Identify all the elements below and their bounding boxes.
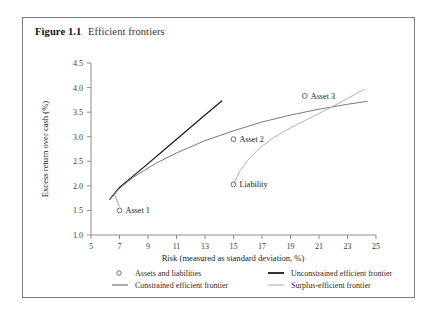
y-axis-title: Excess return over cash (%) [40, 101, 50, 198]
y-tick-label: 4.5 [73, 59, 83, 68]
series-constrained-efficient-frontier [110, 101, 368, 199]
open-circle-icon [117, 271, 121, 275]
x-tick-label: 11 [173, 242, 181, 251]
x-axis-ticks: 5791113151719212325 [89, 235, 380, 251]
x-tick-label: 23 [344, 242, 352, 251]
scatter-point-label: Liability [240, 180, 269, 189]
y-tick-label: 1.0 [73, 231, 83, 240]
scatter-marker [231, 137, 236, 142]
scatter-marker [117, 208, 122, 213]
scatter-point-label: Asset 1 [126, 206, 150, 215]
y-axis-ticks: 1.01.52.02.53.03.54.04.5 [73, 59, 91, 240]
x-tick-label: 13 [201, 242, 209, 251]
y-tick-label: 4.0 [73, 84, 83, 93]
x-tick-label: 21 [315, 242, 323, 251]
x-tick-label: 17 [258, 242, 266, 251]
x-axis-title: Risk (measured as standard deviation, %) [162, 253, 305, 263]
efficient-frontiers-chart: 1.01.52.02.53.03.54.04.5 579111315171921… [23, 18, 416, 299]
x-tick-label: 19 [287, 242, 295, 251]
y-tick-label: 2.0 [73, 182, 83, 191]
chart-plot-area: 1.01.52.02.53.03.54.04.5 579111315171921… [23, 18, 416, 299]
x-tick-label: 5 [89, 242, 93, 251]
y-tick-label: 2.5 [73, 157, 83, 166]
chart-annotations [114, 193, 120, 206]
scatter-point-label: Asset 2 [240, 135, 264, 144]
series-unconstrained-efficient-frontier [110, 101, 223, 200]
legend-item-label: Constrained efficient frontier [135, 281, 228, 290]
annotation-leader-line [114, 193, 120, 206]
x-tick-label: 7 [118, 242, 122, 251]
y-tick-label: 1.5 [73, 206, 83, 215]
scatter-marker [302, 94, 307, 99]
scatter-point-label: Asset 3 [311, 92, 335, 101]
figure-frame: Figure 1.1 Efficient frontiers 1.01.52.0… [22, 17, 415, 298]
legend-item-label: Surplus-efficient frontier [291, 281, 371, 290]
chart-series-group [110, 89, 368, 200]
x-tick-label: 15 [230, 242, 238, 251]
chart-scatter-points: Asset 1Asset 2Asset 3Liability [117, 92, 335, 216]
x-tick-label: 9 [146, 242, 150, 251]
y-tick-label: 3.0 [73, 133, 83, 142]
x-tick-label: 25 [372, 242, 380, 251]
legend-item-label: Unconstrained efficient frontier [291, 269, 392, 278]
chart-legend: Assets and liabilitiesUnconstrained effi… [112, 269, 392, 290]
legend-item-label: Assets and liabilities [135, 269, 201, 278]
y-tick-label: 3.5 [73, 108, 83, 117]
